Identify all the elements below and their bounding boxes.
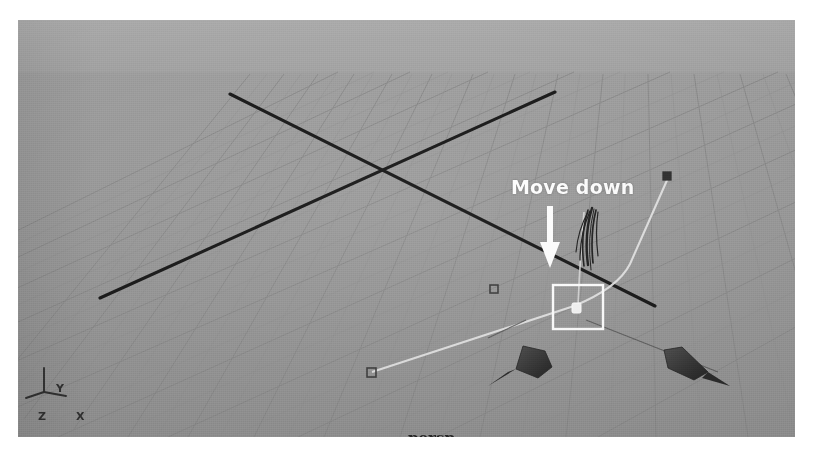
perspective-viewport[interactable]: Move down persp Y Z X <box>18 20 795 437</box>
viewport-name-label: persp <box>408 429 455 437</box>
axis-gizmo-x-label: X <box>76 410 84 423</box>
cv-marker-upper-right[interactable] <box>663 172 671 180</box>
viewport-background <box>18 20 795 437</box>
axis-gizmo-z-label: Z <box>38 410 46 423</box>
selected-control-vertex[interactable] <box>572 303 581 313</box>
screenshot-root: Move down persp Y Z X <box>0 0 817 459</box>
move-down-annotation-label: Move down <box>511 176 634 198</box>
horizon-band <box>18 20 795 72</box>
axis-gizmo-y-label: Y <box>56 382 64 395</box>
viewport-canvas <box>18 20 795 437</box>
